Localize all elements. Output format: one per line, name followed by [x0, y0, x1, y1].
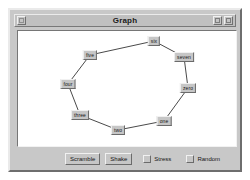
window-title: Graph — [15, 15, 235, 26]
scramble-button[interactable]: Scramble — [65, 153, 100, 165]
screen: Graph sixsevenzeroonetwothreefourfive Sc… — [0, 0, 250, 180]
window-inner: Graph sixsevenzeroonetwothreefourfive Sc… — [12, 12, 238, 168]
stress-checkbox[interactable] — [143, 155, 151, 163]
window-menu-icon[interactable] — [17, 16, 26, 25]
random-label: Random — [197, 155, 220, 163]
minimize-icon[interactable] — [213, 16, 222, 25]
random-checkbox[interactable] — [186, 155, 194, 163]
graph-edges — [18, 31, 237, 147]
graph-node[interactable]: zero — [180, 83, 196, 93]
stress-label: Stress — [154, 155, 171, 163]
graph-node[interactable]: two — [111, 125, 125, 135]
stress-checkbox-row[interactable]: Stress — [143, 155, 171, 163]
shake-button[interactable]: Shake — [105, 153, 132, 165]
graph-node[interactable]: seven — [174, 52, 194, 62]
graph-edge — [90, 41, 154, 55]
window-menu-button[interactable] — [17, 16, 26, 25]
graph-node[interactable]: one — [157, 116, 172, 126]
controls-row: Scramble Shake Stress Random — [17, 151, 237, 167]
graph-node[interactable]: five — [83, 50, 97, 60]
graph-node[interactable]: three — [71, 110, 89, 120]
random-checkbox-row[interactable]: Random — [186, 155, 220, 163]
graph-node[interactable]: four — [60, 79, 75, 89]
title-bar[interactable]: Graph — [14, 14, 236, 27]
graph-node[interactable]: six — [148, 36, 160, 46]
window-controls — [213, 16, 233, 25]
maximize-icon[interactable] — [224, 16, 233, 25]
graph-canvas[interactable]: sixsevenzeroonetwothreefourfive — [17, 30, 237, 147]
graph-window: Graph sixsevenzeroonetwothreefourfive Sc… — [8, 8, 242, 172]
